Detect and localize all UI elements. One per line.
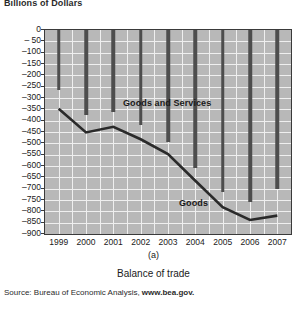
y-tick-label: –350 <box>0 104 41 113</box>
y-tick-label: –850 <box>0 217 41 226</box>
y-tick-label: –300 <box>0 93 41 102</box>
y-tick-label: –750 <box>0 195 41 204</box>
y-tick-label: –450 <box>0 127 41 136</box>
gridline-vertical <box>264 30 265 234</box>
y-tick-label: –700 <box>0 183 41 192</box>
bar <box>221 30 225 192</box>
y-tick-label: –200 <box>0 70 41 79</box>
source-url: www.bea.gov. <box>142 288 194 297</box>
gridline-vertical <box>236 30 237 234</box>
bar <box>276 30 280 189</box>
y-tick-label: –250 <box>0 81 41 90</box>
gridline-vertical <box>72 30 73 234</box>
x-tick-label: 2002 <box>131 237 150 247</box>
y-tick-label: –150 <box>0 59 41 68</box>
gridline-vertical <box>154 30 155 234</box>
source-note: Source: Bureau of Economic Analysis, www… <box>4 288 304 297</box>
bar <box>84 30 88 115</box>
x-tick-label: 2000 <box>77 237 96 247</box>
figure-caption: Balance of trade <box>0 268 307 279</box>
x-axis-line <box>44 234 292 236</box>
plot-area: Goods and Services Goods <box>45 29 292 234</box>
gridline-vertical <box>209 30 210 234</box>
gridline-vertical <box>127 30 128 234</box>
bar <box>57 30 61 90</box>
bar <box>166 30 170 142</box>
x-tick-label: 2004 <box>186 237 205 247</box>
panel-label: (a) <box>0 250 307 260</box>
y-axis-tick-labels: 0– 50–100–150–200–250–300–350–400–450–50… <box>0 0 41 310</box>
balance-of-trade-figure: Billions of Dollars 0– 50–100–150–200–25… <box>0 0 307 310</box>
y-tick-label: –800 <box>0 206 41 215</box>
y-tick-label: –900 <box>0 229 41 238</box>
x-tick-label: 2005 <box>213 237 232 247</box>
y-tick-label: –600 <box>0 161 41 170</box>
y-tick-label: –400 <box>0 115 41 124</box>
x-tick-label: 2007 <box>268 237 287 247</box>
gridline-vertical <box>100 30 101 234</box>
bar <box>139 30 143 125</box>
y-tick-label: – 50 <box>0 36 41 45</box>
source-prefix: Source: Bureau of Economic Analysis, <box>4 288 142 297</box>
x-tick-label: 2006 <box>241 237 260 247</box>
y-tick-label: –550 <box>0 149 41 158</box>
series-annotation-goods: Goods <box>179 198 208 208</box>
plot-inner: Goods and Services Goods <box>45 30 291 234</box>
y-tick-label: –100 <box>0 47 41 56</box>
bar <box>112 30 116 112</box>
x-tick-label: 1999 <box>49 237 68 247</box>
y-tick-label: –650 <box>0 172 41 181</box>
y-tick-label: –500 <box>0 138 41 147</box>
x-tick-label: 2003 <box>159 237 178 247</box>
x-tick-label: 2001 <box>104 237 123 247</box>
series-annotation-goods-and-services: Goods and Services <box>123 98 211 108</box>
bar <box>248 30 252 202</box>
y-tick-label: 0 <box>0 25 41 34</box>
